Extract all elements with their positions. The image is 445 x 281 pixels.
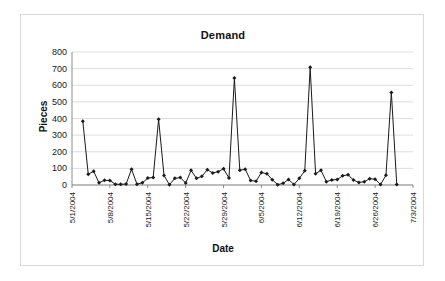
data-point-marker: [357, 181, 361, 185]
x-tick-label: 5/15/2004: [144, 191, 153, 227]
data-point-marker: [216, 170, 220, 174]
data-point-marker: [232, 76, 236, 80]
y-tick-label: 200: [52, 147, 67, 157]
x-tick-label: 6/12/2004: [295, 191, 304, 227]
x-tick-label: 6/26/2004: [371, 191, 380, 227]
data-point-marker: [395, 183, 399, 187]
plot-area: 0100200300400500600700800 5/1/20045/8/20…: [21, 15, 425, 267]
chart-frame: Demand Pieces Date 010020030040050060070…: [20, 14, 424, 266]
x-tick-label: 6/5/2004: [257, 191, 266, 223]
data-point-marker: [135, 182, 139, 186]
y-tick-label: 0: [62, 180, 67, 190]
y-tick-labels-group: 0100200300400500600700800: [52, 47, 67, 190]
data-point-marker: [330, 178, 334, 182]
y-tick-label: 400: [52, 114, 67, 124]
data-point-marker: [243, 167, 247, 171]
data-point-marker: [362, 180, 366, 184]
gridlines-group: [72, 52, 413, 185]
data-point-marker: [368, 177, 372, 181]
data-point-marker: [389, 90, 393, 94]
y-tick-label: 600: [52, 80, 67, 90]
y-tick-label: 500: [52, 97, 67, 107]
data-point-marker: [86, 172, 90, 176]
axis-lines-group: [72, 52, 413, 188]
x-tick-label: 5/1/2004: [68, 191, 77, 223]
x-tick-label: 5/8/2004: [106, 191, 115, 223]
data-point-marker: [324, 180, 328, 184]
data-point-marker: [102, 178, 106, 182]
x-tick-label: 6/19/2004: [333, 191, 342, 227]
data-point-marker: [81, 119, 85, 123]
data-point-marker: [130, 167, 134, 171]
data-point-marker: [157, 117, 161, 121]
x-tick-labels-group: 5/1/20045/8/20045/15/20045/22/20045/29/2…: [68, 191, 418, 227]
data-point-marker: [151, 176, 155, 180]
data-point-marker: [119, 182, 123, 186]
x-tick-label: 7/3/2004: [409, 191, 418, 223]
data-point-marker: [92, 169, 96, 173]
data-point-marker: [249, 179, 253, 183]
x-tick-label: 5/22/2004: [182, 191, 191, 227]
y-tick-label: 700: [52, 64, 67, 74]
y-tick-label: 800: [52, 47, 67, 57]
data-point-marker: [97, 181, 101, 185]
x-tick-label: 5/29/2004: [220, 191, 229, 227]
y-tick-label: 300: [52, 130, 67, 140]
y-tick-label: 100: [52, 163, 67, 173]
chart-canvas: 0100200300400500600700800 5/1/20045/8/20…: [21, 15, 425, 267]
data-point-marker: [238, 168, 242, 172]
